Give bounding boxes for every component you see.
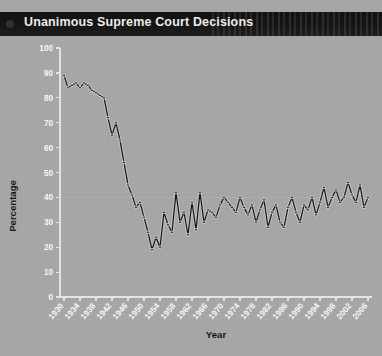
- y-axis-tick-label: 40: [44, 193, 54, 202]
- x-axis-label: Year: [206, 329, 227, 340]
- data-point: [115, 121, 118, 124]
- data-point: [131, 194, 134, 197]
- x-axis-tick-label: 1958: [159, 301, 178, 321]
- data-point: [251, 204, 254, 207]
- x-axis-tick-label: 1998: [319, 301, 338, 321]
- data-point: [163, 211, 166, 214]
- chart-page: Unanimous Supreme Court Decisions 010203…: [0, 0, 382, 356]
- x-axis-tick-label: 1986: [271, 301, 290, 321]
- data-point: [235, 211, 238, 214]
- data-point: [143, 216, 146, 219]
- data-point: [95, 91, 98, 94]
- data-point: [347, 181, 350, 184]
- data-point: [211, 211, 214, 214]
- x-axis-tick-label: 2006: [351, 301, 370, 321]
- chart-container: 0102030405060708090100 19301934193819421…: [0, 36, 382, 356]
- x-axis-tick-label: 1942: [95, 301, 114, 321]
- x-axis-tick-label: 1954: [143, 301, 162, 321]
- data-point: [171, 231, 174, 234]
- data-point: [299, 221, 302, 224]
- data-point: [223, 196, 226, 199]
- x-axis-tick-label: 1982: [255, 301, 274, 321]
- data-point: [195, 228, 198, 231]
- data-point: [247, 213, 250, 216]
- data-point: [287, 206, 290, 209]
- data-point: [87, 84, 90, 87]
- data-point: [319, 201, 322, 204]
- data-point: [135, 206, 138, 209]
- data-point: [351, 194, 354, 197]
- data-point: [363, 206, 366, 209]
- data-point: [343, 196, 346, 199]
- data-point: [103, 96, 106, 99]
- y-axis-tick-labels: 0102030405060708090100: [39, 44, 53, 302]
- title-bar-dot-icon: [6, 20, 14, 28]
- data-point: [243, 206, 246, 209]
- data-point: [307, 209, 310, 212]
- x-axis-tick-label: 1974: [223, 301, 242, 321]
- y-axis-tick-label: 100: [39, 44, 53, 53]
- data-point: [67, 86, 70, 89]
- series-halo: [64, 75, 368, 249]
- series-markers: [63, 74, 370, 251]
- data-point: [119, 139, 122, 142]
- y-axis-tick-label: 0: [48, 293, 53, 302]
- x-axis-tick-label: 1950: [127, 301, 146, 321]
- data-point: [255, 221, 258, 224]
- x-axis-tick-label: 1994: [303, 301, 322, 321]
- data-point: [275, 204, 278, 207]
- data-point: [83, 82, 86, 85]
- data-point: [111, 134, 114, 137]
- y-axis-tick-label: 90: [44, 69, 54, 78]
- data-point: [203, 221, 206, 224]
- data-point: [331, 196, 334, 199]
- data-point: [271, 211, 274, 214]
- x-axis-tick-label: 1930: [47, 301, 66, 321]
- y-axis-tick-label: 50: [44, 169, 54, 178]
- line-chart: 0102030405060708090100 19301934193819421…: [0, 36, 382, 356]
- y-axis-tick-label: 20: [44, 243, 54, 252]
- title-bar: Unanimous Supreme Court Decisions: [0, 12, 382, 36]
- data-point: [91, 89, 94, 92]
- page-title: Unanimous Supreme Court Decisions: [24, 15, 253, 29]
- data-point: [159, 246, 162, 249]
- data-point: [279, 221, 282, 224]
- data-point: [123, 161, 126, 164]
- x-axis-tick-label: 1934: [63, 301, 82, 321]
- x-axis-tick-label: 1966: [191, 301, 210, 321]
- data-point: [355, 201, 358, 204]
- data-point: [179, 221, 182, 224]
- x-axis-tick-label: 1962: [175, 301, 194, 321]
- data-point: [295, 211, 298, 214]
- x-axis-tick-label: 1938: [79, 301, 98, 321]
- data-point: [147, 231, 150, 234]
- data-point: [291, 196, 294, 199]
- x-axis-tick-labels: 1930193419381942194619501954195819621966…: [47, 301, 370, 321]
- data-point: [127, 184, 130, 187]
- data-point: [215, 216, 218, 219]
- data-point: [167, 223, 170, 226]
- data-point: [207, 209, 210, 212]
- data-point: [267, 226, 270, 229]
- data-point: [155, 236, 158, 239]
- x-axis-tick-label: 1970: [207, 301, 226, 321]
- data-point: [219, 204, 222, 207]
- data-point: [75, 82, 78, 85]
- data-point: [227, 201, 230, 204]
- data-point: [187, 233, 190, 236]
- y-axis-tick-label: 10: [44, 268, 54, 277]
- data-point: [79, 86, 82, 89]
- y-axis-tick-label: 70: [44, 119, 54, 128]
- data-point: [303, 204, 306, 207]
- data-point: [259, 209, 262, 212]
- data-point: [99, 94, 102, 97]
- data-point: [283, 226, 286, 229]
- data-point: [339, 201, 342, 204]
- data-point: [183, 211, 186, 214]
- data-point: [315, 213, 318, 216]
- x-axis-tick-label: 1946: [111, 301, 130, 321]
- y-axis-tick-label: 30: [44, 218, 54, 227]
- data-point: [323, 186, 326, 189]
- x-axis-tick-label: 1990: [287, 301, 306, 321]
- x-axis-tick-label: 1978: [239, 301, 258, 321]
